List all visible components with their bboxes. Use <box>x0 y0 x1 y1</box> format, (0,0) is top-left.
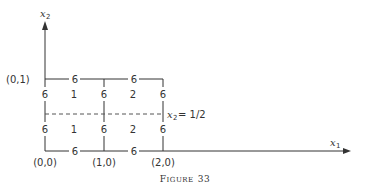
figure-caption: FIGURE33 <box>160 174 210 184</box>
edge-label-mid-lower: 6 <box>101 124 107 135</box>
point-label-1-0: (1,0) <box>92 157 116 168</box>
point-label-0-1: (0,1) <box>6 74 30 85</box>
edge-label-left-lower: 6 <box>42 124 48 135</box>
edge-label-top-left: 6 <box>72 74 78 85</box>
x-axis-arrow-icon <box>343 148 351 154</box>
figure-diagram: x 2 x 1 6 6 6 6 6 6 6 6 6 6 1 2 1 2 (0,1… <box>0 0 370 187</box>
edge-label-mid-upper: 6 <box>101 89 107 100</box>
edge-label-top-right: 6 <box>131 74 137 85</box>
y-axis-arrow-icon <box>42 21 48 30</box>
cut-line-label-rhs: = 1/2 <box>178 109 206 120</box>
cell-label-upper-right: 2 <box>130 89 136 100</box>
edge-label-right-upper: 6 <box>160 89 166 100</box>
edge-label-left-upper: 6 <box>42 89 48 100</box>
y-axis-label-sub: 2 <box>46 13 50 21</box>
point-label-0-0: (0,0) <box>33 157 57 168</box>
edge-label-right-lower: 6 <box>160 124 166 135</box>
cell-label-upper-left: 1 <box>71 89 77 100</box>
x-axis-label-sub: 1 <box>336 142 340 150</box>
edge-label-bottom-left: 6 <box>72 146 78 157</box>
cut-line-label-sub: 2 <box>173 114 177 122</box>
edge-label-bottom-right: 6 <box>131 146 137 157</box>
cell-label-lower-right: 2 <box>130 124 136 135</box>
cell-label-lower-left: 1 <box>71 124 77 135</box>
point-label-2-0: (2,0) <box>151 157 175 168</box>
